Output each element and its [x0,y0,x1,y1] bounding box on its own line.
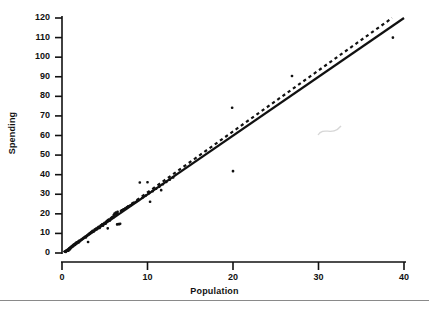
x-axis-tick-label: 10 [135,272,161,282]
x-axis-tick-label: 40 [391,272,417,282]
scatter-point [291,75,294,78]
y-axis-tick-label: 90 [24,71,50,81]
y-axis-tick-label: 60 [24,130,50,140]
y-axis-title: Spending [7,103,17,163]
y-axis-tick-label: 100 [24,51,50,61]
scan-artifact-squiggle [318,126,341,135]
scatter-plot-figure: 0102030405060708090100110120 010203040 S… [0,0,429,311]
y-axis-tick-label: 20 [24,208,50,218]
scatter-points [65,36,395,253]
y-axis-tick-label: 0 [24,247,50,257]
x-axis-tick-label: 20 [220,272,246,282]
scatter-point [168,178,171,181]
y-axis-tick-label: 50 [24,149,50,159]
y-axis-tick-label: 80 [24,90,50,100]
scatter-point [149,200,152,203]
scatter-point [165,181,168,184]
scatter-point [392,36,395,39]
scatter-point [116,211,119,214]
scatter-point [172,176,175,179]
plot-canvas [0,0,429,311]
scatter-point [148,192,151,195]
scan-artifact-squiggle [318,126,341,135]
scatter-point [138,199,141,202]
x-axis-tick-label: 30 [306,272,332,282]
scatter-point [162,183,165,186]
y-axis-tick-label: 120 [24,12,50,22]
regression-lines [64,18,404,252]
scatter-point [106,227,109,230]
y-axis-tick-label: 30 [24,188,50,198]
y-axis-tick-label: 40 [24,169,50,179]
y-axis-ticks [55,18,62,253]
scatter-point [87,241,90,244]
solid-regression-line [64,18,404,252]
scatter-point [232,170,235,173]
scatter-point [231,106,234,109]
scatter-point [139,181,142,184]
page-divider-rule [0,300,429,301]
scatter-point [158,185,161,188]
scatter-point [146,181,149,184]
y-axis-tick-label: 10 [24,227,50,237]
scatter-point [119,223,122,226]
x-axis-tick-label: 0 [49,272,75,282]
scatter-point [144,194,147,197]
scatter-point [155,187,158,190]
scatter-point [160,189,163,192]
scatter-point [141,196,144,199]
x-axis-ticks [62,262,404,270]
scatter-point [151,190,154,193]
x-axis-title: Population [0,286,429,296]
y-axis-tick-label: 70 [24,110,50,120]
y-axis-tick-label: 110 [24,32,50,42]
